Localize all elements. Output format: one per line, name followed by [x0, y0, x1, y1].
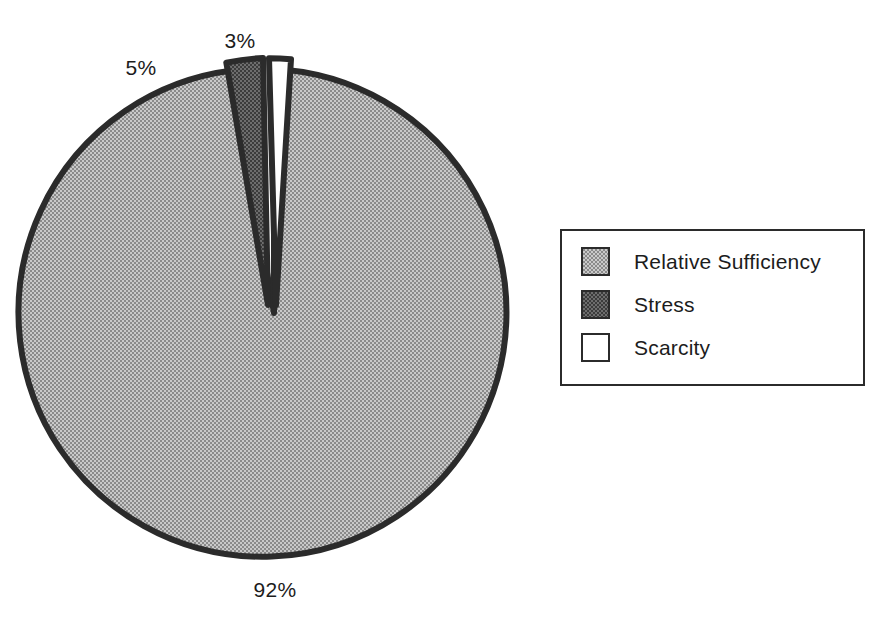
pie-value-label-relative-sufficiency: 92% — [238, 578, 312, 602]
legend-swatch-stress — [581, 290, 610, 319]
legend-swatch-scarcity — [581, 333, 610, 362]
pie-svg — [0, 0, 560, 626]
legend-item-relative-sufficiency: Relative Sufficiency — [581, 246, 821, 277]
legend-item-scarcity: Scarcity — [581, 332, 821, 363]
legend-label-stress: Stress — [634, 294, 695, 315]
legend-label-relative-sufficiency: Relative Sufficiency — [634, 251, 821, 272]
pie-value-label-stress: 5% — [104, 56, 178, 80]
pie-value-label-scarcity: 3% — [203, 29, 277, 53]
chart-legend: Relative Sufficiency — [560, 229, 865, 386]
pie-chart-figure: 3% 5% 92% — [0, 0, 887, 626]
legend-item-stress: Stress — [581, 289, 821, 320]
legend-item-list: Relative Sufficiency — [581, 246, 821, 363]
legend-swatch-relative-sufficiency — [581, 247, 610, 276]
legend-label-scarcity: Scarcity — [634, 337, 710, 358]
pie-plot-area: 3% 5% 92% — [0, 0, 560, 626]
